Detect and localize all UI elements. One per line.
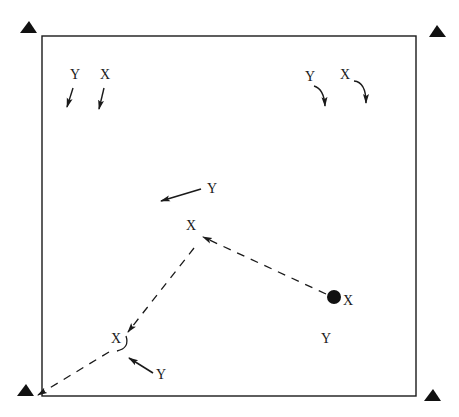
- corner-triangle-bottom-left-icon: [17, 384, 34, 396]
- dashed-path-3: [38, 352, 109, 395]
- corner-triangle-top-right-icon: [429, 25, 446, 37]
- corner-triangle-top-left-icon: [20, 21, 37, 33]
- dashed-path-2: [128, 248, 194, 332]
- label-mid-x: X: [186, 218, 196, 233]
- curved-arrow-tr-x-icon: [354, 81, 366, 103]
- label-mid-y: Y: [207, 181, 217, 196]
- boundary-frame: [42, 36, 416, 396]
- label-tr-x: X: [340, 67, 350, 82]
- label-left-x: X: [111, 331, 121, 346]
- arrow-tl-x-icon: [99, 88, 104, 109]
- label-left-y: Y: [156, 367, 166, 382]
- label-tl-y: Y: [70, 67, 80, 82]
- arrow-tl-y-icon: [67, 88, 73, 107]
- label-tr-y: Y: [305, 69, 315, 84]
- label-dot-x: X: [343, 293, 353, 308]
- label-lower-y: Y: [321, 331, 331, 346]
- corner-triangle-bottom-right-icon: [424, 389, 441, 401]
- dashed-path-1: [203, 237, 326, 294]
- start-point-dot: [327, 290, 341, 304]
- pursuit-diagram: Y X Y X Y X X Y X Y: [0, 0, 459, 417]
- arrow-left-y-icon: [129, 358, 153, 373]
- arrow-mid-y-icon: [161, 189, 201, 201]
- curved-arrow-tr-y-icon: [314, 86, 325, 106]
- label-tl-x: X: [100, 67, 110, 82]
